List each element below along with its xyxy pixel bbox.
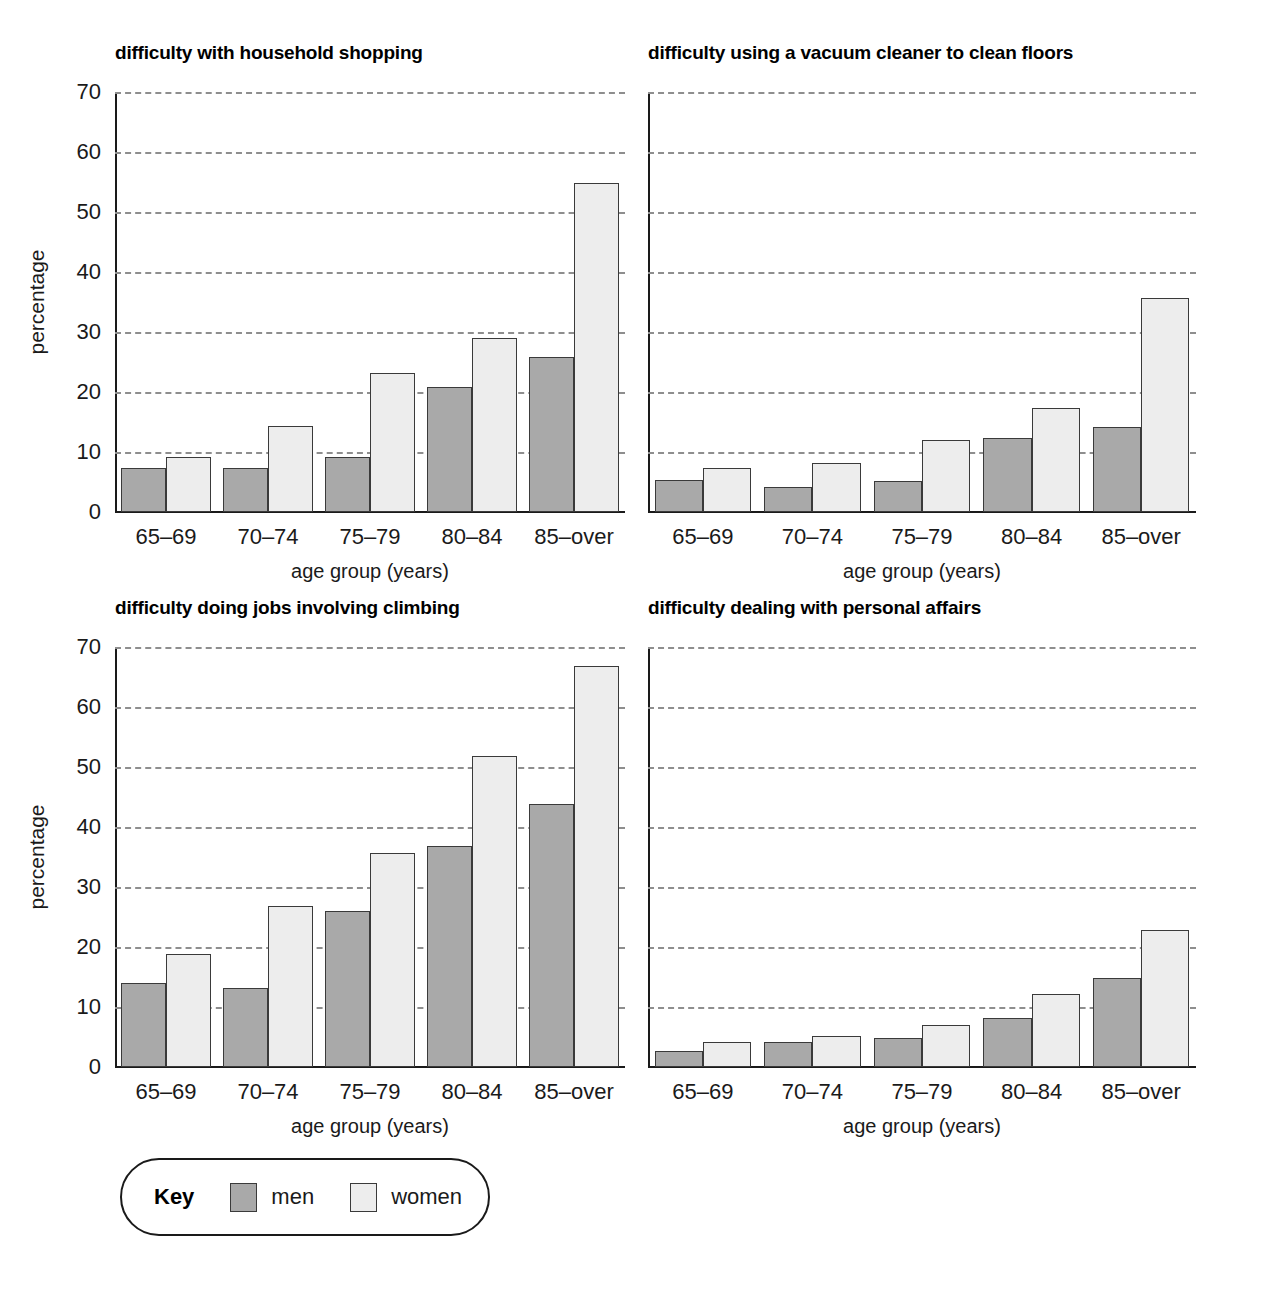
x-axis-title: age group (years)	[115, 1115, 625, 1138]
bar-women	[922, 440, 970, 512]
x-axis-tick-label: 85–over	[523, 1067, 625, 1105]
bar-group	[115, 647, 217, 1067]
bar-group	[319, 92, 421, 512]
bar-women	[370, 853, 415, 1067]
x-axis-tick-label: 80–84	[977, 512, 1087, 550]
bar-men	[1093, 427, 1141, 512]
bar-men	[121, 468, 166, 512]
x-axis-tick-label: 65–69	[648, 1067, 758, 1105]
y-axis-tick-label: 70	[77, 79, 101, 105]
x-axis-tick-label: 80–84	[421, 1067, 523, 1105]
plot-area: 010203040506070 65–6970–7475–7980–8485–o…	[115, 92, 625, 512]
bar-group	[319, 647, 421, 1067]
chart-panel-personal-affairs: difficulty dealing with personal affairs…	[640, 555, 1235, 1110]
bar-men	[874, 1038, 922, 1067]
bar-women	[268, 426, 313, 512]
y-axis-tick-label: 20	[77, 379, 101, 405]
bar-men	[325, 457, 370, 512]
bar-group	[523, 92, 625, 512]
legend-label-men: men	[271, 1184, 314, 1210]
bar-group	[421, 92, 523, 512]
chart-title: difficulty using a vacuum cleaner to cle…	[648, 42, 1073, 64]
bar-women	[268, 906, 313, 1067]
bar-men	[655, 1051, 703, 1067]
x-axis-tick-label: 70–74	[217, 512, 319, 550]
y-axis-tick-label: 30	[77, 319, 101, 345]
bar-women	[1141, 930, 1189, 1067]
bar-men	[764, 487, 812, 512]
x-axis-title: age group (years)	[648, 1115, 1196, 1138]
bar-men	[121, 983, 166, 1067]
chart-title: difficulty doing jobs involving climbing	[115, 597, 460, 619]
x-axis-tick-label: 75–79	[867, 512, 977, 550]
bar-group	[977, 92, 1087, 512]
y-axis-tick-label: 0	[89, 1054, 101, 1080]
bar-women	[574, 666, 619, 1067]
bar-women	[370, 373, 415, 512]
bar-men	[223, 988, 268, 1067]
y-axis-label: percentage	[22, 647, 52, 1067]
y-axis-tick-label: 30	[77, 874, 101, 900]
bar-groups	[115, 647, 625, 1067]
bar-men	[223, 468, 268, 512]
bar-women	[166, 457, 211, 512]
x-axis-labels: 65–6970–7475–7980–8485–over	[648, 1067, 1196, 1105]
y-axis-tick-label: 50	[77, 199, 101, 225]
bar-men	[764, 1042, 812, 1067]
bar-group	[758, 92, 868, 512]
legend-swatch-women-icon	[350, 1183, 377, 1212]
bar-women	[472, 756, 517, 1067]
bar-group	[1086, 92, 1196, 512]
bar-group	[648, 647, 758, 1067]
bar-women	[1032, 408, 1080, 512]
x-axis-tick-label: 70–74	[758, 1067, 868, 1105]
bar-women	[1032, 994, 1080, 1067]
x-axis-tick-label: 70–74	[217, 1067, 319, 1105]
y-axis-tick-label: 60	[77, 139, 101, 165]
bar-groups	[648, 647, 1196, 1067]
chart-panel-jobs-climbing: difficulty doing jobs involving climbing…	[0, 555, 640, 1110]
x-axis-tick-label: 65–69	[648, 512, 758, 550]
x-axis-tick-label: 65–69	[115, 512, 217, 550]
bar-group	[867, 647, 977, 1067]
bar-group	[977, 647, 1087, 1067]
bar-women	[703, 468, 751, 512]
bar-women	[574, 183, 619, 512]
bar-group	[115, 92, 217, 512]
x-axis-tick-label: 70–74	[758, 512, 868, 550]
x-axis-tick-label: 85–over	[523, 512, 625, 550]
bar-women	[812, 1036, 860, 1067]
y-axis-tick-label: 60	[77, 694, 101, 720]
y-axis-label: percentage	[22, 92, 52, 512]
bar-men	[529, 357, 574, 512]
bar-men	[983, 1018, 1031, 1067]
bar-men	[874, 481, 922, 512]
bar-women	[166, 954, 211, 1067]
y-axis-tick-label: 10	[77, 439, 101, 465]
x-axis-tick-label: 75–79	[867, 1067, 977, 1105]
legend-item-men: men	[230, 1183, 314, 1212]
plot-area: 65–6970–7475–7980–8485–over age group (y…	[648, 92, 1196, 512]
x-axis-tick-label: 75–79	[319, 512, 421, 550]
x-axis-tick-label: 75–79	[319, 1067, 421, 1105]
y-axis-tick-label: 70	[77, 634, 101, 660]
legend-item-women: women	[350, 1183, 462, 1212]
chart-title: difficulty dealing with personal affairs	[648, 597, 981, 619]
charts-grid: difficulty with household shopping perce…	[0, 0, 1275, 1140]
chart-panel-household-shopping: difficulty with household shopping perce…	[0, 0, 640, 555]
bar-men	[655, 480, 703, 512]
bar-groups	[648, 92, 1196, 512]
x-axis-tick-label: 80–84	[977, 1067, 1087, 1105]
plot-area: 65–6970–7475–7980–8485–over age group (y…	[648, 647, 1196, 1067]
bar-group	[867, 92, 977, 512]
legend-swatch-men-icon	[230, 1183, 257, 1212]
y-axis-tick-label: 10	[77, 994, 101, 1020]
x-axis-labels: 65–6970–7475–7980–8485–over	[115, 1067, 625, 1105]
x-axis-labels: 65–6970–7475–7980–8485–over	[648, 512, 1196, 550]
y-axis-tick-label: 40	[77, 814, 101, 840]
y-axis-tick-label: 0	[89, 499, 101, 525]
legend-title: Key	[154, 1184, 194, 1210]
bar-group	[421, 647, 523, 1067]
bar-group	[648, 92, 758, 512]
bar-group	[758, 647, 868, 1067]
